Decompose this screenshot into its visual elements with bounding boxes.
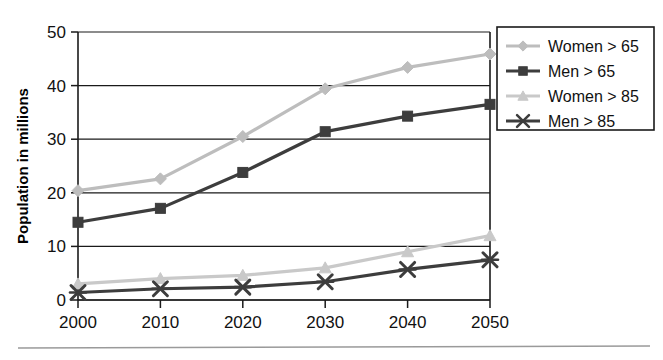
data-point-1-4 [403,111,413,121]
y-tick-label-20: 20 [47,184,66,203]
data-point-1-0 [73,217,83,227]
x-tick-label-2040: 2040 [389,313,427,332]
legend: Women > 65Men > 65Women > 85Men > 85 [497,27,654,130]
data-point-1-2 [238,167,248,177]
x-tick-label-2020: 2020 [224,313,262,332]
legend-label-1: Men > 65 [548,63,615,80]
y-axis-title: Population in millions [14,88,31,244]
chart-figure: 01020304050 200020102020203020402050 Pop… [0,0,663,360]
legend-label-0: Women > 65 [548,38,639,55]
x-tick-label-2000: 2000 [59,313,97,332]
x-tick-label-2010: 2010 [141,313,179,332]
data-point-1-1 [155,203,165,213]
square-marker-icon [519,67,528,76]
x-tick-label-2030: 2030 [306,313,344,332]
y-tick-label-10: 10 [47,237,66,256]
y-tick-label-30: 30 [47,130,66,149]
y-tick-label-40: 40 [47,77,66,96]
data-point-1-3 [320,127,330,137]
y-tick-label-50: 50 [47,23,66,42]
x-tick-label-2050: 2050 [471,313,509,332]
y-tick-label-0: 0 [57,291,66,310]
line-chart: 01020304050 200020102020203020402050 Pop… [0,0,663,360]
legend-label-3: Men > 85 [548,113,615,130]
data-point-1-5 [485,99,495,109]
legend-label-2: Women > 85 [548,88,639,105]
